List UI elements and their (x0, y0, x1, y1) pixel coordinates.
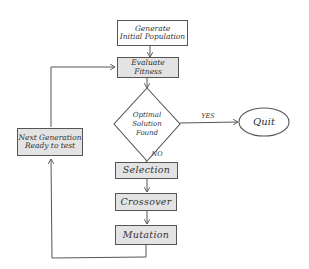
decision-line2: Solution (122, 120, 172, 129)
no-label: NO (150, 150, 164, 158)
decision-line1: Optimal (122, 111, 172, 120)
evaluate-fitness-box: EvaluateFitness (117, 57, 179, 78)
selection-box: Selection (115, 162, 178, 179)
generate-population-box: GenerateInitial Population (117, 20, 188, 46)
decision-label: Optimal Solution Found (122, 111, 172, 138)
arrow-yes-to-quit (180, 122, 238, 123)
yes-label: YES (198, 112, 218, 120)
arrow-next-gen-to-evaluate (51, 67, 115, 127)
next-gen-line2: Ready to test (18, 142, 81, 151)
evaluate-line2: Fitness (131, 68, 164, 77)
crossover-label: Crossover (120, 198, 171, 207)
selection-label: Selection (123, 166, 171, 175)
quit-label: Quit (244, 116, 284, 128)
crossover-box: Crossover (115, 193, 177, 211)
mutation-box: Mutation (115, 225, 177, 245)
generate-line2: Initial Population (120, 33, 185, 42)
next-generation-box: Next GenerationReady to test (17, 128, 83, 156)
mutation-label: Mutation (123, 231, 169, 240)
decision-line3: Found (122, 129, 172, 138)
